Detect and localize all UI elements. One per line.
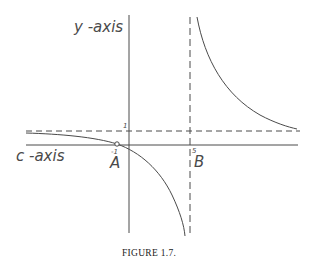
curve-right-branch: [197, 17, 297, 129]
x-axis-label: c -axis: [16, 147, 65, 165]
figure-caption: FIGURE 1.7.: [122, 248, 176, 258]
point-b-label: B: [194, 153, 204, 171]
tick-label-y-one: 1: [123, 122, 127, 130]
point-a-label: A: [109, 154, 120, 172]
y-axis-label: y -axis: [73, 18, 123, 36]
point-a-marker: [115, 142, 119, 146]
figure-1-7: y -axis c -axis 1 -1 5 A B FIGURE 1.7.: [0, 0, 311, 263]
